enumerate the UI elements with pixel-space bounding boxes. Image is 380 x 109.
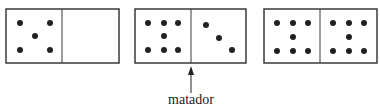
matador-arrow-icon: [188, 66, 194, 93]
domino-1: [6, 9, 119, 63]
domino-2: [135, 9, 246, 63]
matador-label: matador: [168, 92, 214, 107]
domino-3: [264, 9, 377, 63]
domino-diagram: matador: [0, 0, 380, 109]
